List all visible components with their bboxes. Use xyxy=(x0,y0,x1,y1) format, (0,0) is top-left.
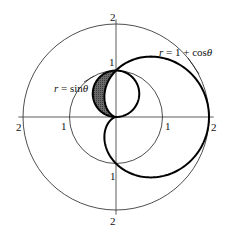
tick-label-top-2: 2 xyxy=(110,11,116,23)
tick-label-left-2: 2 xyxy=(16,121,22,133)
tick-label-right-2: 2 xyxy=(211,121,217,133)
cardioid-label-theta: θ xyxy=(207,46,213,58)
tick-label-bottom-1: 1 xyxy=(110,170,116,182)
sine-label-eq: = sin xyxy=(58,82,83,94)
sine-label: r = sinθ xyxy=(54,82,89,94)
cardioid-label: r = 1 + cosθ xyxy=(159,46,213,58)
tick-label-bottom-2: 2 xyxy=(110,215,116,227)
tick-label-right-1: 1 xyxy=(165,120,171,132)
tick-label-left-1: 1 xyxy=(61,120,67,132)
sine-label-theta: θ xyxy=(83,82,89,94)
tick-label-top-1: 1 xyxy=(109,56,115,68)
cardioid-label-eq: = 1 + cos xyxy=(163,46,207,58)
polar-figure: 2 1 1 2 2 1 1 2 r = 1 + cosθ r = sinθ xyxy=(0,0,231,239)
